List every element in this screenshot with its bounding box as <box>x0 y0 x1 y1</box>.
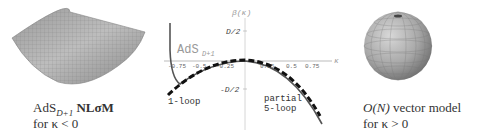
five-loop-curve <box>170 23 322 124</box>
beta-function-plot: β(κ) D/2 -D/2 κ -0.75 -0.5 -0.25 0.25 0.… <box>150 0 350 140</box>
x-tick: 0.75 <box>305 63 320 70</box>
partial-label: partial <box>264 94 302 104</box>
on-text: O(N) <box>363 100 390 115</box>
vector-model-text: vector model <box>390 100 461 115</box>
x-tick: 0.5 <box>286 63 297 70</box>
plot-canvas: β(κ) D/2 -D/2 κ -0.75 -0.5 -0.25 0.25 0.… <box>150 0 350 140</box>
ads-caption-line2: for κ < 0 <box>33 117 78 131</box>
ads-label: AdS <box>177 43 199 57</box>
sphere-caption-line1: O(N) vector model <box>363 101 461 115</box>
ads-surface-panel: AdSD+1 NLσM for κ < 0 <box>0 0 160 140</box>
nlsm-text: NLσM <box>73 100 114 115</box>
y-axis-label: β(κ) <box>231 8 251 17</box>
x-axis-label: κ <box>334 56 339 65</box>
ads-text: AdS <box>33 100 56 115</box>
y-tick-top: D/2 <box>226 27 241 36</box>
sphere-panel: O(N) vector model for κ > 0 <box>340 0 486 140</box>
y-tick-bottom: -D/2 <box>220 85 239 94</box>
one-loop-label: 1-loop <box>168 97 200 107</box>
sphere-surface-icon <box>340 0 486 100</box>
sphere-caption-line2: for κ > 0 <box>363 117 408 131</box>
five-loop-label: 5-loop <box>264 104 296 114</box>
saddle-surface-icon <box>0 0 160 100</box>
ads-label-sub: D+1 <box>202 50 215 58</box>
